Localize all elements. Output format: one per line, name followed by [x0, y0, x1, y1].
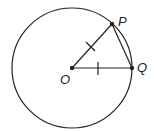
point-o	[70, 66, 74, 70]
point-p	[110, 22, 114, 26]
segment-op	[72, 24, 112, 68]
point-q	[130, 66, 134, 70]
diagram-canvas: O P Q	[0, 0, 154, 132]
label-o: O	[60, 72, 70, 87]
label-p: P	[118, 14, 127, 29]
label-q: Q	[137, 60, 147, 75]
segment-pq	[112, 24, 132, 68]
